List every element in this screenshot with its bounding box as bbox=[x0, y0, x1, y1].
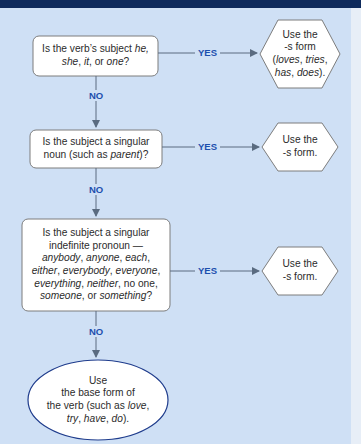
yes-label-1: YES bbox=[195, 47, 220, 58]
yes-label-2: YES bbox=[195, 141, 220, 152]
decision-1-text: Is the verb’s subject he, she, it, or on… bbox=[33, 36, 158, 76]
no-label-2: NO bbox=[86, 184, 106, 195]
yes-label-3: YES bbox=[195, 265, 220, 276]
no-label-1: NO bbox=[86, 90, 106, 101]
outcome-3-text: Use the -s form. bbox=[262, 247, 338, 295]
decision-3-text: Is the subject a singular indefinite pro… bbox=[22, 219, 170, 311]
no-label-3: NO bbox=[86, 326, 106, 337]
outcome-2-text: Use the -s form. bbox=[262, 123, 338, 171]
decision-2-text: Is the subject a singular noun (such as … bbox=[30, 130, 162, 168]
outcome-1-text: Use the -s form (loves, tries, has, does… bbox=[262, 20, 338, 88]
outcome-4-text: Use the base form of the verb (such as l… bbox=[28, 360, 168, 440]
